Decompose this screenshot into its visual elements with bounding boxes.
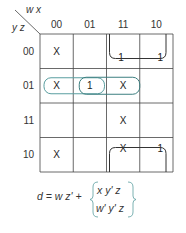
equation-option-1: x y' z: [96, 184, 121, 196]
column-headers: 00011110: [51, 19, 162, 30]
column-header: 00: [51, 19, 63, 30]
right-brace: [128, 182, 136, 217]
cell-dont-care: X: [53, 149, 60, 160]
equation-lhs: d = w z' +: [37, 190, 82, 202]
row-header: 10: [23, 149, 35, 160]
row-header: 00: [23, 46, 35, 57]
cell-dont-care: X: [120, 143, 127, 154]
equation-option-2: w' y' z: [96, 202, 125, 214]
cell-dont-care: X: [120, 80, 127, 91]
row-var-label: y z: [11, 22, 25, 33]
column-header: 01: [84, 19, 96, 30]
cell-dont-care: X: [53, 46, 60, 57]
cell-minterm: 1: [118, 52, 124, 63]
cell-minterm: 1: [158, 52, 164, 63]
col-var-label: w x: [26, 4, 42, 15]
cell-minterm: 1: [158, 143, 164, 154]
row-header: 11: [24, 115, 35, 126]
column-header: 11: [118, 19, 129, 30]
cell-minterm: 1: [87, 80, 93, 91]
equation: d = w z' + x y' z w' y' z: [37, 182, 136, 217]
cell-dont-care: X: [53, 80, 60, 91]
karnaugh-map-diagram: w x y z 00011110 00011110 X11X1XXXX1 d =…: [0, 0, 186, 233]
cell-dont-care: X: [120, 115, 127, 126]
row-headers: 00011110: [23, 46, 35, 161]
row-header: 01: [23, 80, 35, 91]
column-header: 10: [151, 19, 163, 30]
corner-label: w x y z: [11, 4, 42, 34]
